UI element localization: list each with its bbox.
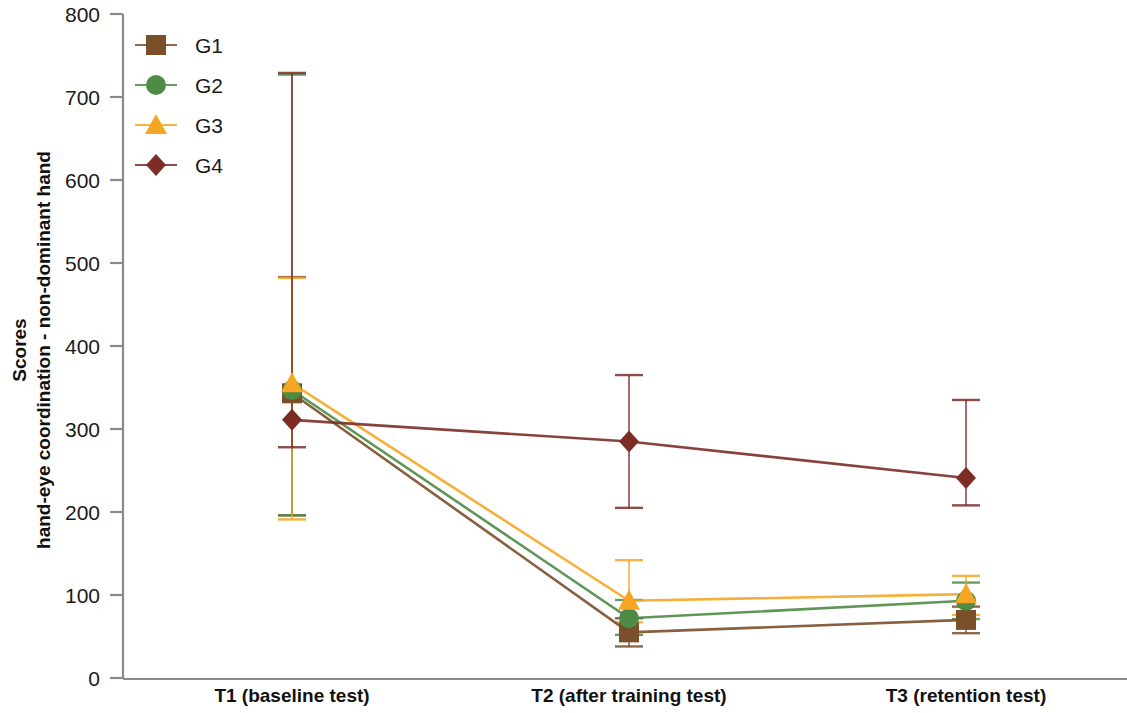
legend: G1G2G3G4 [135, 34, 223, 177]
y-tick-label: 800 [65, 3, 100, 26]
y-tick-label: 700 [65, 86, 100, 109]
error-bars-g2 [278, 75, 980, 635]
x-tick-label-t2: T2 (after training test) [531, 685, 726, 706]
marker-square [956, 610, 976, 630]
y-tick-label: 300 [65, 418, 100, 441]
y-axis-tick-labels: 800 700 600 500 400 300 200 100 0 [65, 3, 100, 690]
marker-circle [146, 75, 166, 95]
y-axis-title-line2: hand-eye coordination - non-dominant han… [33, 151, 54, 549]
marker-diamond [146, 154, 166, 176]
legend-label: G1 [195, 34, 223, 57]
y-axis-title: Scores hand-eye coordination - non-domin… [9, 151, 54, 549]
legend-item-g3[interactable]: G3 [135, 114, 223, 137]
marker-square [146, 35, 166, 55]
legend-item-g4[interactable]: G4 [135, 154, 223, 177]
y-tick-label: 500 [65, 252, 100, 275]
line-chart-with-error-bars: 800 700 600 500 400 300 200 100 0 Scores… [0, 0, 1127, 713]
y-tick-label: 200 [65, 501, 100, 524]
marker-diamond [282, 409, 302, 431]
x-axis-tick-labels: T1 (baseline test) T2 (after training te… [214, 685, 1046, 706]
y-tick-label: 600 [65, 169, 100, 192]
marker-circle [619, 608, 639, 628]
y-axis-title-line1: Scores [9, 318, 30, 381]
y-axis-ticks [110, 14, 123, 678]
y-tick-label: 400 [65, 335, 100, 358]
data-series-layer [278, 73, 980, 647]
chart-container: 800 700 600 500 400 300 200 100 0 Scores… [0, 0, 1127, 713]
legend-item-g2[interactable]: G2 [135, 74, 223, 97]
legend-label: G3 [195, 114, 223, 137]
marker-diamond [956, 467, 976, 489]
y-tick-label: 100 [65, 584, 100, 607]
x-tick-label-t3: T3 (retention test) [886, 685, 1046, 706]
marker-diamond [619, 430, 639, 452]
legend-label: G4 [195, 154, 223, 177]
y-tick-label: 0 [88, 667, 100, 690]
marker-triangle [281, 372, 303, 392]
legend-label: G2 [195, 74, 223, 97]
x-tick-label-t1: T1 (baseline test) [214, 685, 369, 706]
legend-item-g1[interactable]: G1 [135, 34, 223, 57]
